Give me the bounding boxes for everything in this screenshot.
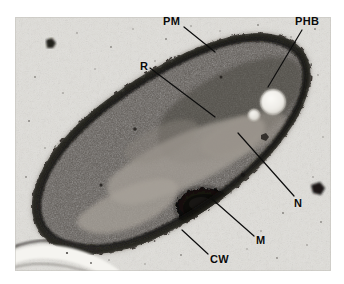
- label-mesosome: M: [256, 235, 265, 246]
- electron-micrograph-figure: PM PHB R N M CW: [0, 0, 344, 284]
- label-plasma-membrane: PM: [163, 16, 180, 27]
- label-ribosomes: R: [140, 61, 148, 72]
- label-cell-wall: CW: [210, 254, 229, 265]
- label-nucleoid: N: [294, 198, 302, 209]
- micrograph-image: [15, 17, 331, 271]
- micrograph-canvas: [15, 17, 331, 271]
- label-phb-granule: PHB: [295, 16, 319, 27]
